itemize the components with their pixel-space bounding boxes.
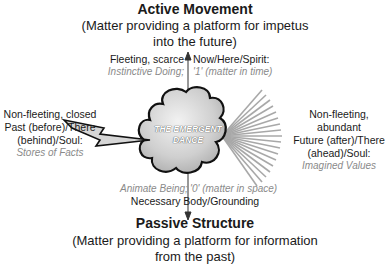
bottom-title: Passive Structure: [0, 215, 390, 231]
bottom-subtitle-line1: (Matter providing a platform for informa…: [0, 233, 390, 249]
center-label: THE EMERGENT DANCE: [146, 124, 230, 146]
right-line2: Future (after)/There: [288, 134, 390, 147]
radiating-rays-icon: [222, 90, 282, 186]
bottom-subtitle: (Matter providing a platform for informa…: [0, 233, 390, 265]
top-subtitle: (Matter providing a platform for impetus…: [0, 18, 390, 50]
lower-center-label: Necessary Body/Grounding: [110, 195, 280, 208]
top-subtitle-line2: into the future): [0, 34, 390, 50]
left-italic: Stores of Facts: [0, 147, 100, 158]
upper-left-block: Fleeting, scarce Instinctive Doing;: [100, 53, 184, 77]
upper-right-label: Now/Here/Spirit:: [193, 53, 303, 66]
right-line1: Non-fleeting, abundant: [288, 108, 390, 134]
right-block: Non-fleeting, abundant Future (after)/Th…: [288, 108, 390, 171]
top-title: Active Movement: [0, 1, 390, 17]
lower-right-italic: '0' (matter in space): [190, 183, 300, 194]
upper-right-italic: '1' (matter in time): [193, 66, 303, 77]
upper-right-block: Now/Here/Spirit: '1' (matter in time): [193, 53, 303, 77]
bottom-subtitle-line2: from the past): [0, 249, 390, 265]
center-line2: DANCE: [146, 135, 230, 146]
top-subtitle-line1: (Matter providing a platform for impetus: [0, 18, 390, 34]
left-line3: (behind)/Soul:: [0, 134, 100, 147]
upper-left-italic: Instinctive Doing;: [100, 66, 184, 77]
left-line2: Past (before)/There: [0, 121, 100, 134]
lower-left-italic: Animate Being;: [120, 183, 190, 194]
left-line1: Non-fleeting, closed: [0, 108, 100, 121]
left-block: Non-fleeting, closed Past (before)/There…: [0, 108, 100, 158]
upper-left-label: Fleeting, scarce: [100, 53, 184, 66]
center-line1: THE EMERGENT: [146, 124, 230, 135]
right-italic: Imagined Values: [288, 160, 390, 171]
right-line3: (ahead)/Soul:: [288, 147, 390, 160]
